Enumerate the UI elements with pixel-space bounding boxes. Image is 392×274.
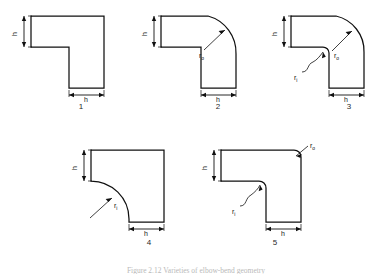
figure-number-2: 2 <box>208 102 228 111</box>
elbow-outline-4 <box>91 150 164 222</box>
elbow-outline-3 <box>291 16 364 88</box>
figure-5-drawing: h ro ri h <box>196 140 328 236</box>
leader-inner-radius-5 <box>240 185 263 206</box>
elbow-outline-1 <box>31 16 104 88</box>
figure-3-drawing: h ro ri h <box>266 6 388 102</box>
figure-4-drawing: h ri h <box>66 140 188 236</box>
figure-2-drawing: h ro h <box>136 6 256 102</box>
label-outer-radius-2: ro <box>199 52 204 61</box>
figure-panel-3: h ro ri h <box>266 6 388 102</box>
label-h-vertical-5: h <box>201 166 208 170</box>
label-outer-radius-5: ro <box>310 142 315 151</box>
label-inner-radius-3: ri <box>294 74 297 83</box>
figure-number-3: 3 <box>339 102 359 111</box>
leader-inner-radius-3 <box>302 52 326 72</box>
label-h-vertical-1: h <box>11 32 18 36</box>
figure-number-4: 4 <box>139 238 159 247</box>
label-h-vertical-4: h <box>71 166 78 170</box>
leader-outer-radius-2 <box>204 30 225 50</box>
figure-1-drawing: h h <box>6 6 124 102</box>
label-h-vertical-2: h <box>141 32 148 36</box>
figure-number-1: 1 <box>71 102 91 111</box>
figure-sheet: h h 1 h <box>0 0 392 274</box>
leader-outer-radius-3 <box>332 31 352 51</box>
figure-panel-5: h ro ri h <box>196 140 328 236</box>
figure-number-5: 5 <box>265 238 285 247</box>
label-outer-radius-3: ro <box>334 52 339 61</box>
leader-inner-radius-4 <box>90 198 112 218</box>
figure-panel-2: h ro h <box>136 6 256 102</box>
label-h-horizontal-5: h <box>281 230 285 237</box>
label-h-horizontal-4: h <box>144 230 148 237</box>
label-inner-radius-5: ri <box>232 208 235 217</box>
figure-caption: Figure 2.12 Varieties of elbow-bend geom… <box>0 265 392 274</box>
label-inner-radius-4: ri <box>114 202 117 211</box>
figure-panel-4: h ri h <box>66 140 188 236</box>
figure-panel-1: h h <box>6 6 124 102</box>
label-h-vertical-3: h <box>271 32 278 36</box>
leader-outer-radius-5 <box>296 146 308 158</box>
